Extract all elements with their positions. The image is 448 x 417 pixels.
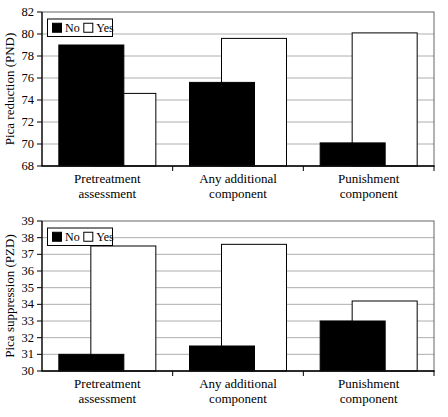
x-category-label: Punishmentcomponent (338, 171, 400, 201)
y-tick-label: 36 (22, 264, 35, 278)
y-tick-label: 72 (22, 115, 35, 129)
bar-no-any-additional-component (190, 346, 255, 371)
y-axis-title: Pica reduction (PND) (2, 33, 17, 146)
x-category-label: Pretreatmentassessment (74, 171, 141, 201)
y-tick-label: 82 (22, 5, 35, 19)
y-tick-label: 38 (22, 231, 35, 245)
legend: NoYes (48, 228, 115, 246)
y-tick-label: 37 (22, 247, 35, 261)
bar-yes-pretreatment-assessment (91, 246, 156, 371)
legend-label-no: No (65, 21, 80, 35)
bar-no-pretreatment-assessment (59, 45, 124, 166)
bar-no-any-additional-component (190, 82, 255, 166)
pica-suppression-pzd-chart: 30313233343536373839Pretreatmentassessme… (0, 208, 448, 417)
chart-canvas: 6870727476788082PretreatmentassessmentAn… (0, 0, 448, 208)
legend-label-yes: Yes (96, 230, 114, 244)
y-tick-label: 31 (22, 347, 35, 361)
legend: NoYes (48, 19, 115, 37)
y-tick-label: 30 (22, 364, 35, 378)
legend-label-no: No (65, 230, 80, 244)
legend-swatch-no (53, 23, 62, 32)
y-tick-label: 33 (22, 314, 35, 328)
legend-label-yes: Yes (96, 21, 114, 35)
y-tick-label: 34 (22, 297, 35, 311)
x-category-label: Any additionalcomponent (199, 171, 277, 201)
y-tick-label: 35 (22, 281, 35, 295)
legend-swatch-no (53, 232, 62, 241)
y-tick-label: 32 (22, 331, 35, 345)
y-tick-label: 39 (22, 214, 35, 228)
y-tick-label: 74 (22, 93, 35, 107)
y-axis-title: Pica suppression (PZD) (2, 234, 17, 358)
pica-treatment-figure: 6870727476788082PretreatmentassessmentAn… (0, 0, 448, 417)
x-category-label: Punishmentcomponent (338, 376, 400, 406)
x-category-label: Pretreatmentassessment (74, 376, 141, 406)
chart-canvas: 30313233343536373839Pretreatmentassessme… (0, 208, 448, 417)
legend-swatch-yes (84, 23, 93, 32)
bar-no-pretreatment-assessment (59, 354, 124, 371)
y-tick-label: 70 (22, 137, 35, 151)
y-tick-label: 78 (22, 49, 35, 63)
pica-reduction-pnd-chart: 6870727476788082PretreatmentassessmentAn… (0, 0, 448, 208)
bar-no-punishment-component (320, 143, 385, 166)
y-tick-label: 80 (22, 27, 35, 41)
y-tick-label: 76 (22, 71, 35, 85)
bar-no-punishment-component (320, 321, 385, 371)
legend-swatch-yes (84, 232, 93, 241)
y-tick-label: 68 (22, 159, 35, 173)
x-category-label: Any additionalcomponent (199, 376, 277, 406)
